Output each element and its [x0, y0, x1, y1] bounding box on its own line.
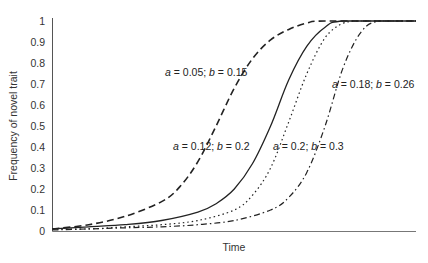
y-tick-label: 0.3 — [30, 162, 45, 174]
series-line-dash-dot — [53, 21, 417, 230]
y-tick-label: 0.6 — [30, 99, 45, 111]
annotation-a018-b026: a = 0.18; b = 0.26 — [332, 78, 415, 90]
series-line-solid — [53, 21, 417, 229]
y-tick-labels: 00.10.20.30.40.50.60.70.80.91 — [30, 15, 45, 237]
y-tick-label: 0 — [39, 225, 45, 237]
y-axis-label: Frequency of novel trait — [7, 71, 19, 181]
axes — [53, 18, 417, 232]
y-tick-label: 0.5 — [30, 120, 45, 132]
y-tick-label: 1 — [39, 15, 45, 27]
annotation-a012-b02: a = 0.12; b = 0.2 — [173, 140, 250, 152]
series-line-dashed — [53, 21, 417, 229]
ann-text-1: = — [171, 66, 183, 78]
annotation-a005-b015: a = 0.05; b = 0.15 — [165, 66, 248, 78]
y-tick-label: 0.9 — [30, 36, 45, 48]
series-group — [53, 21, 417, 230]
annotation-a02-b03: a = 0.2; b = 0.3 — [273, 140, 344, 152]
y-tick-label: 0.8 — [30, 57, 45, 69]
y-tick-label: 0.1 — [30, 204, 45, 216]
x-axis-label: Time — [223, 241, 246, 253]
y-tick-label: 0.7 — [30, 78, 45, 90]
y-tick-label: 0.4 — [30, 141, 45, 153]
series-line-dotted — [53, 21, 417, 229]
y-tick-label: 0.2 — [30, 183, 45, 195]
line-chart: 00.10.20.30.40.50.60.70.80.91 Time Frequ… — [0, 0, 428, 263]
